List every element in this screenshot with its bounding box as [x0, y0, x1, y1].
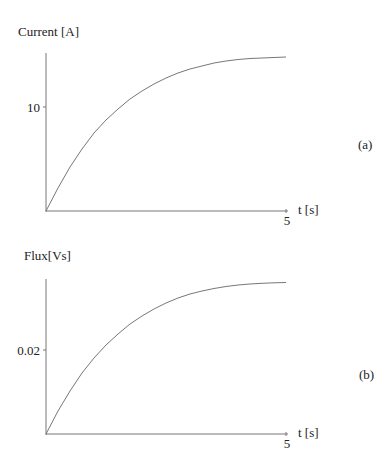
- x-axis-title: t [s]: [298, 425, 319, 440]
- y-tick-label: 10: [27, 100, 40, 115]
- chart-flux: Flux[Vs] 0.02 5 t [s] (b): [17, 248, 374, 451]
- panel-label-b: (b): [359, 367, 374, 382]
- chart-current: Current [A] 10 5 t [s] (a): [18, 24, 372, 228]
- x-axis-title: t [s]: [298, 202, 319, 217]
- flux-curve: [46, 283, 286, 435]
- panel-label-a: (a): [358, 137, 372, 152]
- figure: Current [A] 10 5 t [s] (a) Flux[Vs] 0.02…: [0, 0, 390, 473]
- x-tick-label: 5: [284, 213, 291, 228]
- current-curve: [46, 57, 286, 211]
- y-tick-label: 0.02: [17, 343, 40, 358]
- x-tick-label: 5: [284, 436, 291, 451]
- y-axis-title: Current [A]: [18, 24, 79, 39]
- y-axis-title: Flux[Vs]: [24, 248, 71, 263]
